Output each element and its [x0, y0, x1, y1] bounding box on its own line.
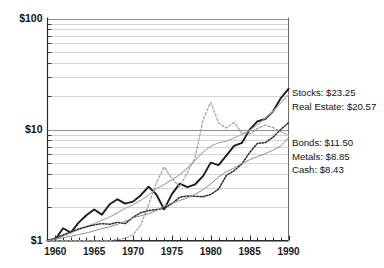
- investment-growth-chart: $1$10$100 1960196519701975198019851990 S…: [0, 0, 384, 268]
- legend-entry: Cash: $8.43: [292, 164, 344, 175]
- y-tick-label: $1: [31, 234, 43, 246]
- y-tick-label: $10: [25, 123, 43, 135]
- series-line-stocks: [48, 89, 289, 241]
- x-tick-label: 1965: [83, 246, 106, 257]
- series-line-cash: [48, 138, 289, 241]
- y-axis-labels: $1$10$100: [19, 12, 43, 246]
- x-tick-label: 1970: [122, 246, 145, 257]
- x-axis-ticks: [56, 236, 290, 241]
- legend-entry: Metals: $8.85: [292, 151, 350, 162]
- legend-entry: Bonds: $11.50: [292, 137, 353, 148]
- series-line-metals: [48, 102, 289, 240]
- x-tick-label: 1975: [161, 246, 184, 257]
- legend-entry: Real Estate: $20.57: [292, 101, 376, 112]
- x-tick-label: 1985: [239, 246, 262, 257]
- x-tick-label: 1990: [277, 246, 300, 257]
- legend-entry: Stocks: $23.25: [292, 87, 355, 98]
- data-series-lines: [48, 89, 289, 241]
- chart-canvas: $1$10$100 1960196519701975198019851990 S…: [0, 0, 384, 268]
- x-tick-label: 1980: [200, 246, 223, 257]
- legend: Stocks: $23.25Real Estate: $20.57Bonds: …: [292, 87, 376, 175]
- x-tick-label: 1960: [44, 246, 67, 257]
- x-axis-labels: 1960196519701975198019851990: [44, 246, 300, 257]
- gridlines: [48, 20, 289, 242]
- y-tick-label: $100: [19, 12, 43, 24]
